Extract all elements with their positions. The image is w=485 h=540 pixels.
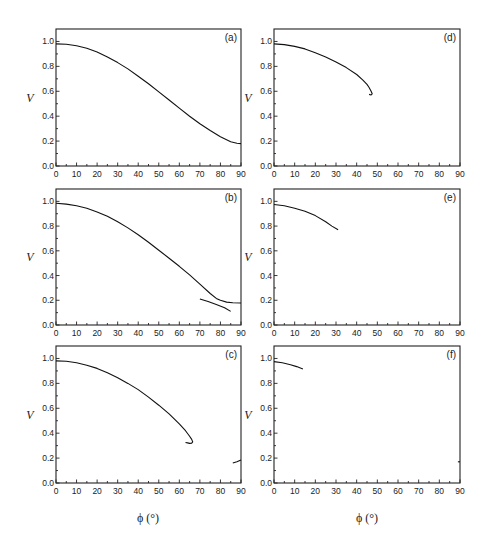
x-tick-label: 50 bbox=[154, 328, 164, 338]
data-curve-branch1 bbox=[56, 44, 241, 144]
plot-frame bbox=[274, 29, 460, 166]
x-tick-label: 10 bbox=[290, 328, 300, 338]
panel-e: 01020304050607080900.00.20.40.60.81.0V(e… bbox=[244, 189, 465, 338]
y-tick-label: 0.8 bbox=[42, 378, 54, 388]
y-tick-label: 0.0 bbox=[42, 478, 54, 488]
y-tick-label: 0.6 bbox=[260, 246, 272, 256]
y-tick-label: 1.0 bbox=[42, 36, 54, 46]
plot-frame bbox=[56, 346, 241, 483]
x-tick-label: 0 bbox=[54, 486, 59, 496]
x-tick-label: 70 bbox=[195, 486, 205, 496]
y-tick-label: 0.8 bbox=[42, 61, 54, 71]
x-tick-label: 50 bbox=[154, 486, 164, 496]
y-tick-label: 0.4 bbox=[260, 111, 272, 121]
x-axis-label-right: ϕ (°) bbox=[356, 511, 378, 525]
x-tick-label: 0 bbox=[272, 486, 277, 496]
plot-frame bbox=[56, 29, 241, 166]
x-tick-label: 40 bbox=[133, 486, 143, 496]
y-tick-label: 0.0 bbox=[260, 161, 272, 171]
y-tick-label: 0.4 bbox=[260, 271, 272, 281]
y-tick-label: 0.2 bbox=[42, 136, 54, 146]
data-curve-branch1 bbox=[274, 205, 338, 230]
x-tick-label: 90 bbox=[236, 486, 246, 496]
y-tick-label: 0.4 bbox=[260, 428, 272, 438]
panel-label: (d) bbox=[444, 32, 456, 43]
y-axis-label: V bbox=[26, 250, 35, 264]
y-tick-label: 0.2 bbox=[260, 136, 272, 146]
x-tick-label: 70 bbox=[414, 169, 424, 179]
y-tick-label: 0.8 bbox=[260, 61, 272, 71]
plot-frame bbox=[274, 346, 460, 483]
x-axis-label-left: ϕ (°) bbox=[137, 511, 159, 525]
y-tick-label: 1.0 bbox=[42, 353, 54, 363]
y-tick-label: 0.0 bbox=[42, 320, 54, 330]
panel-label: (e) bbox=[444, 192, 456, 203]
x-tick-label: 40 bbox=[133, 328, 143, 338]
x-tick-label: 10 bbox=[72, 328, 82, 338]
x-tick-label: 60 bbox=[175, 169, 185, 179]
x-tick-label: 30 bbox=[113, 486, 123, 496]
panel-label: (c) bbox=[225, 349, 237, 360]
y-tick-label: 0.0 bbox=[260, 478, 272, 488]
data-curve-branch1 bbox=[274, 44, 372, 95]
x-tick-label: 90 bbox=[455, 486, 465, 496]
x-tick-label: 20 bbox=[92, 486, 102, 496]
x-tick-label: 40 bbox=[352, 486, 362, 496]
data-curve-branch2 bbox=[200, 299, 231, 311]
plot-frame bbox=[56, 189, 241, 325]
x-tick-label: 80 bbox=[435, 169, 445, 179]
x-tick-label: 0 bbox=[272, 169, 277, 179]
panel-label: (f) bbox=[447, 349, 456, 360]
x-tick-label: 20 bbox=[311, 486, 321, 496]
y-tick-label: 0.2 bbox=[260, 295, 272, 305]
figure-canvas: 01020304050607080900.00.20.40.60.81.0V(a… bbox=[0, 0, 485, 540]
x-tick-label: 90 bbox=[455, 328, 465, 338]
y-tick-label: 0.8 bbox=[260, 221, 272, 231]
x-tick-label: 0 bbox=[54, 328, 59, 338]
y-tick-label: 0.8 bbox=[260, 378, 272, 388]
y-tick-label: 0.4 bbox=[42, 111, 54, 121]
x-tick-label: 90 bbox=[236, 169, 246, 179]
panel-grid: 01020304050607080900.00.20.40.60.81.0V(a… bbox=[26, 29, 465, 496]
y-tick-label: 0.4 bbox=[42, 271, 54, 281]
x-tick-label: 40 bbox=[133, 169, 143, 179]
x-tick-label: 90 bbox=[236, 328, 246, 338]
data-curve-branch1 bbox=[56, 203, 241, 303]
panel-label: (b) bbox=[225, 192, 237, 203]
x-tick-label: 70 bbox=[414, 328, 424, 338]
x-tick-label: 80 bbox=[435, 328, 445, 338]
data-curve-branch1 bbox=[56, 361, 193, 444]
panel-label: (a) bbox=[225, 32, 237, 43]
panel-c: 01020304050607080900.00.20.40.60.81.0V(c… bbox=[26, 346, 246, 496]
x-tick-label: 20 bbox=[92, 328, 102, 338]
x-tick-label: 50 bbox=[373, 486, 383, 496]
x-tick-label: 60 bbox=[393, 328, 403, 338]
y-axis-label: V bbox=[244, 408, 253, 422]
x-tick-label: 30 bbox=[113, 328, 123, 338]
y-tick-label: 0.8 bbox=[42, 221, 54, 231]
x-tick-label: 60 bbox=[393, 169, 403, 179]
data-curve-branch1 bbox=[274, 362, 303, 369]
x-tick-label: 50 bbox=[373, 169, 383, 179]
x-tick-label: 30 bbox=[331, 486, 341, 496]
data-curve-branch2 bbox=[233, 460, 241, 463]
y-tick-label: 1.0 bbox=[42, 196, 54, 206]
x-tick-label: 10 bbox=[72, 486, 82, 496]
x-tick-label: 60 bbox=[175, 486, 185, 496]
x-tick-label: 70 bbox=[195, 169, 205, 179]
y-tick-label: 0.2 bbox=[260, 453, 272, 463]
y-tick-label: 0.6 bbox=[260, 403, 272, 413]
y-tick-label: 0.6 bbox=[42, 246, 54, 256]
y-tick-label: 0.2 bbox=[42, 295, 54, 305]
x-tick-label: 50 bbox=[373, 328, 383, 338]
y-tick-label: 0.0 bbox=[260, 320, 272, 330]
x-tick-label: 0 bbox=[272, 328, 277, 338]
y-tick-label: 0.0 bbox=[42, 161, 54, 171]
x-tick-label: 60 bbox=[393, 486, 403, 496]
y-axis-label: V bbox=[26, 91, 35, 105]
panel-d: 01020304050607080900.00.20.40.60.81.0V(d… bbox=[244, 29, 465, 179]
x-tick-label: 20 bbox=[311, 169, 321, 179]
x-tick-label: 60 bbox=[175, 328, 185, 338]
x-tick-label: 40 bbox=[352, 169, 362, 179]
panel-b: 01020304050607080900.00.20.40.60.81.0V(b… bbox=[26, 189, 246, 338]
